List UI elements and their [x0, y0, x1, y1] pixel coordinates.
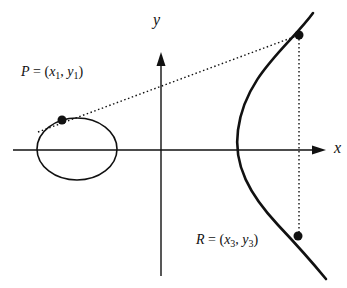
point-r-eq: = ( — [205, 232, 225, 247]
x-axis-arrow-icon — [312, 146, 326, 155]
point-r-marker — [294, 232, 303, 241]
point-p-marker — [58, 116, 67, 125]
x-axis-label: x — [334, 139, 341, 157]
y-axis-arrow-icon — [157, 52, 166, 66]
point-p-label: P = (x1, y1) — [21, 64, 83, 80]
point-r-label: R = (x3, y3) — [196, 232, 258, 248]
point-p-eq: = ( — [30, 64, 50, 79]
point-q-marker — [295, 31, 304, 40]
point-r-name: R — [196, 232, 205, 247]
curve-oval-component — [37, 118, 117, 180]
point-p-close: ) — [79, 64, 84, 79]
point-r-close: ) — [254, 232, 259, 247]
y-axis-label: y — [153, 11, 160, 29]
point-p-name: P — [21, 64, 30, 79]
elliptic-curve-diagram — [0, 0, 347, 288]
